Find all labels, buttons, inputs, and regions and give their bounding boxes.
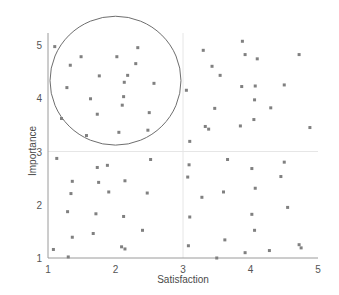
y-tick-label: 2 [32,199,42,210]
data-point [250,213,253,216]
data-point [89,97,92,100]
data-point [146,129,149,132]
x-tick-label: 1 [45,264,51,275]
data-point [188,140,191,143]
data-point [185,89,188,92]
data-point [226,158,229,161]
data-point [252,118,255,121]
data-point [60,117,63,120]
data-point [300,246,303,249]
data-point [269,106,272,109]
scatter-chart: 1234512345 Satisfaction Importance [0,0,339,295]
data-point [239,124,242,127]
data-point [187,244,190,247]
data-point [254,85,257,88]
data-point [121,104,124,107]
highlight-circle [50,16,181,145]
data-point [117,131,120,134]
x-axis-label: Satisfaction [157,274,209,285]
data-point [126,74,129,77]
data-point [207,128,210,131]
data-point [123,179,126,182]
data-point [149,158,152,161]
x-tick-label: 4 [248,264,254,275]
data-point [96,166,99,169]
data-point [219,74,222,77]
data-point [71,236,74,239]
data-point [115,55,118,58]
data-point [69,192,72,195]
data-point [286,206,289,209]
data-point [97,181,100,184]
data-point [152,82,155,85]
data-point [66,210,69,213]
data-point [279,175,282,178]
data-point [308,126,311,129]
data-point [92,232,95,235]
data-point [80,55,83,58]
data-point [123,81,126,84]
data-point [52,248,55,251]
data-points [52,40,312,260]
data-point [123,247,126,250]
data-point [98,74,101,77]
x-tick-label: 2 [113,264,119,275]
data-point [85,134,88,137]
data-point [244,53,247,56]
data-point [254,187,257,190]
data-point [268,249,271,252]
data-point [122,95,125,98]
data-point [223,238,226,241]
data-point [215,257,218,260]
data-point [256,57,259,60]
data-point [253,98,256,101]
data-point [200,196,203,199]
x-tick-label: 5 [315,264,321,275]
data-point [69,64,72,67]
data-point [94,212,97,215]
data-point [71,180,74,183]
data-point [298,243,301,246]
data-point [141,229,144,232]
y-tick-label: 5 [32,40,42,51]
data-point [222,190,225,193]
data-point [188,163,191,166]
data-point [213,107,216,110]
data-point [240,85,243,88]
data-point [241,40,244,43]
data-point [211,65,214,68]
data-point [250,167,253,170]
data-point [202,49,205,52]
data-point [134,62,137,65]
data-point [96,113,99,116]
data-point [67,255,70,258]
data-point [244,251,247,254]
data-point [204,125,207,128]
data-point [148,111,151,114]
plot-area [0,0,339,295]
data-point [55,157,58,160]
y-tick-label: 1 [32,253,42,264]
y-axis-label: Importance [27,126,38,176]
data-point [65,86,68,89]
data-point [106,164,109,167]
gridlines [48,33,318,258]
data-point [186,176,189,179]
highlight-circle [50,16,181,145]
data-point [298,53,301,56]
data-point [136,46,139,49]
data-point [122,215,125,218]
y-tick-label: 4 [32,93,42,104]
data-point [253,229,256,232]
data-point [107,190,110,193]
data-point [188,216,191,219]
data-point [120,245,123,248]
data-point [283,161,286,164]
data-point [146,192,149,195]
data-point [283,83,286,86]
data-point [53,45,56,48]
